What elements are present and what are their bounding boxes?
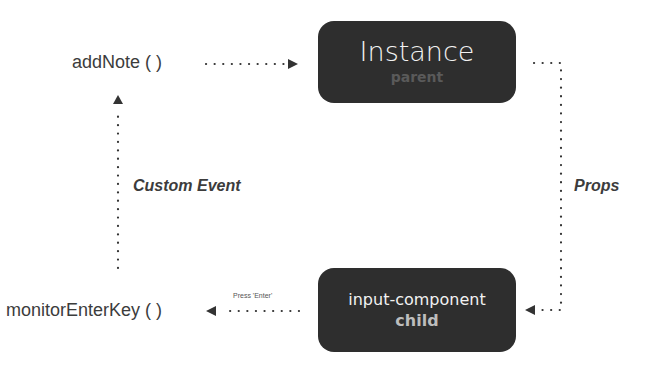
node-instance-parent: Instance parent bbox=[318, 21, 516, 103]
arrowhead-left-icon bbox=[206, 306, 216, 316]
node-title: input-component bbox=[348, 290, 485, 309]
function-add-note: addNote ( ) bbox=[72, 52, 162, 73]
edge-props bbox=[534, 63, 561, 310]
edge-label-custom-event: Custom Event bbox=[133, 177, 241, 195]
node-subtitle: parent bbox=[391, 69, 444, 85]
arrowhead-right-icon bbox=[288, 59, 298, 69]
arrowhead-up-icon bbox=[113, 95, 123, 104]
function-monitor-enter-key: monitorEnterKey ( ) bbox=[6, 300, 162, 321]
node-title: Instance bbox=[360, 36, 475, 67]
node-input-component-child: input-component child bbox=[318, 268, 516, 352]
arrowhead-left-icon bbox=[525, 305, 535, 315]
edge-label-press-enter: Press 'Enter' bbox=[233, 292, 272, 299]
node-subtitle: child bbox=[395, 311, 438, 330]
edge-label-props: Props bbox=[574, 177, 619, 195]
